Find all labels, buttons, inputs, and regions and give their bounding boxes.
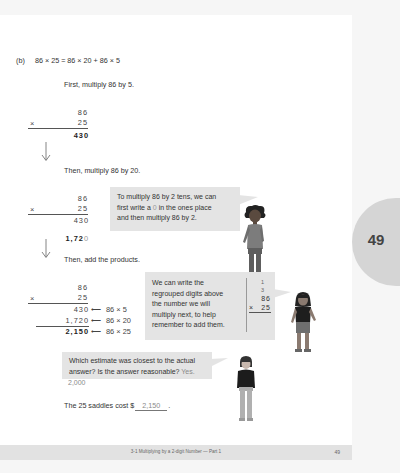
work2-partial2-main: 1,72	[65, 234, 83, 243]
left-arrow-icon: ⟵	[91, 327, 101, 336]
student-figure-icon	[234, 356, 258, 422]
work2-bottom: 25	[28, 204, 88, 215]
step3-text: Then, add the products.	[64, 255, 140, 264]
work3-row1-note: 86 × 5	[106, 305, 127, 314]
speech-bubble-regroup-tip: We can write the regrouped digits above …	[145, 272, 275, 340]
speech-bubble-tens-tip: To multiply 86 by 2 tens, we can first w…	[110, 187, 240, 231]
tens-tip-line2a: first write a	[117, 204, 153, 211]
left-arrow-icon: ⟵	[91, 305, 101, 314]
divider	[246, 278, 247, 332]
estimate-question-line1: Which estimate was closest to the actual	[69, 356, 205, 367]
footer-chapter-title: 3-1 Multiplying by a 2-digit Number — Pa…	[0, 449, 352, 454]
work3-bottom: 25	[28, 293, 88, 304]
speech-bubble-estimate: Which estimate was closest to the actual…	[62, 352, 212, 379]
work1-product: 430	[46, 131, 89, 140]
work1-bottom: 25	[28, 118, 88, 129]
work3-top: 86	[46, 283, 88, 292]
conclusion-answer: 2,150	[135, 401, 167, 411]
conclusion-suffix: .	[168, 401, 170, 410]
textbook-page: (b) 86 × 25 = 86 × 20 + 86 × 5 First, mu…	[0, 15, 352, 460]
regroup-bottom: 25	[261, 303, 271, 312]
arrow-down-icon	[41, 142, 51, 162]
problem-equation: 86 × 25 = 86 × 20 + 86 × 5	[35, 56, 120, 65]
page-side-tab: 49	[352, 198, 400, 286]
tens-tip-line3: and then multiply 86 by 2.	[117, 213, 233, 224]
conclusion-prefix: The 25 saddles cost $	[64, 401, 134, 410]
work3-row2-note: 86 × 20	[106, 316, 131, 325]
tens-tip-line1: To multiply 86 by 2 tens, we can	[117, 192, 233, 203]
work2-partial1: 430	[46, 216, 89, 225]
regroup-sign: ×	[249, 303, 254, 312]
carry-digit-2: 3	[249, 286, 271, 294]
footer-page-number: 49	[334, 449, 340, 455]
step2-text: Then, multiply 86 by 20.	[64, 166, 140, 175]
estimate-answer-yes: Yes.	[181, 368, 194, 375]
work3-row1-value: 430	[40, 305, 89, 314]
arrow-down-icon	[41, 239, 51, 259]
carry-digit-1: 1	[249, 278, 271, 286]
regroup-bottom-row: × 25	[249, 303, 271, 313]
step1-text: First, multiply 86 by 5.	[64, 80, 134, 89]
tens-tip-line2b: in the ones place	[157, 204, 212, 211]
regroup-top: 86	[249, 294, 271, 303]
work2-top: 86	[46, 194, 88, 203]
work3-row3-value: 2,150	[36, 327, 89, 336]
work3-row2-value: 1,720	[36, 316, 89, 327]
bubble-tail	[210, 358, 228, 368]
estimate-question-line2: answer? Is the answer reasonable?	[69, 368, 180, 375]
work1-top: 86	[46, 108, 88, 117]
work3-row3-note: 86 × 25	[106, 327, 131, 336]
girl-figure-icon	[288, 292, 318, 354]
regroup-example: 1 3 86 × 25	[249, 278, 271, 313]
work2-partial2-zero: 0	[84, 234, 89, 243]
estimate-answer-value: 2,000	[68, 379, 86, 386]
side-tab-page-number: 49	[352, 231, 400, 248]
conclusion-sentence: The 25 saddles cost $2,150.	[64, 401, 170, 411]
regroup-tip-line5: remember to add them.	[152, 320, 268, 331]
left-arrow-icon: ⟵	[91, 316, 101, 325]
problem-label: (b)	[16, 56, 25, 65]
page-footer: 3-1 Multiplying by a 2-digit Number — Pa…	[0, 445, 352, 460]
